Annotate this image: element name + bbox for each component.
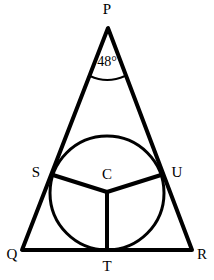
vertex-label-p: P	[103, 1, 111, 17]
tangent-label-s: S	[32, 164, 40, 180]
radius-segment-cu	[107, 175, 161, 192]
vertex-label-q: Q	[7, 246, 18, 262]
geometry-figure: 48° P Q R S U T C	[0, 0, 214, 280]
tangent-label-u: U	[172, 164, 183, 180]
vertex-label-r: R	[197, 246, 207, 262]
tangent-label-t: T	[102, 258, 111, 274]
radius-segment-cs	[53, 175, 107, 192]
center-label-c: C	[102, 166, 112, 182]
angle-label-apex: 48°	[97, 54, 117, 69]
angle-arc-apex	[90, 76, 125, 80]
geometry-canvas: 48° P Q R S U T C	[0, 0, 214, 280]
